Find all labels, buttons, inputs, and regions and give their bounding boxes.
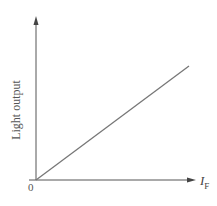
- x-axis-label: IF: [200, 173, 209, 191]
- origin-label: 0: [28, 181, 34, 193]
- y-axis-arrow-icon: [34, 16, 39, 25]
- data-line: [36, 66, 189, 180]
- y-axis-label: Light output: [8, 60, 24, 160]
- x-axis-label-subscript: F: [204, 181, 209, 191]
- x-axis-arrow-icon: [187, 178, 196, 183]
- chart-canvas: [0, 0, 217, 206]
